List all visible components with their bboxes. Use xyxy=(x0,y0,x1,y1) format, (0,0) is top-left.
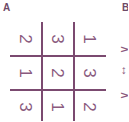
panel-b-partial-glyph: ∧ xyxy=(118,45,129,54)
grid-cell: 2 xyxy=(73,90,105,122)
grid-cell: 1 xyxy=(73,22,105,55)
panel-b-partial-glyph: ∧ xyxy=(118,91,129,100)
panel-b-label: B xyxy=(122,2,128,13)
grid-cell: 3 xyxy=(41,22,73,55)
grid-cell: 3 xyxy=(73,56,105,89)
grid-cell: 2 xyxy=(9,22,41,55)
panel-b-partial-glyph: ↔ xyxy=(119,65,128,77)
grid-cell: 1 xyxy=(9,56,41,89)
panel-a-label: A xyxy=(3,2,10,13)
grid-cell: 3 xyxy=(9,90,41,122)
grid-cell: 1 xyxy=(41,90,73,122)
grid-cell: 2 xyxy=(41,56,73,89)
